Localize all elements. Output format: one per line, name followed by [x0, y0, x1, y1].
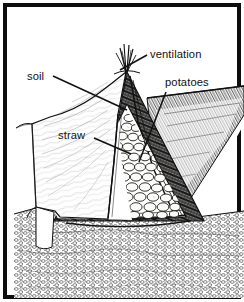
ventilation-tuft: [114, 44, 140, 74]
figure-frame: soil ventilation potatoes straw: [3, 3, 241, 299]
diagram-canvas: soil ventilation potatoes straw: [14, 14, 244, 302]
label-straw: straw: [58, 129, 86, 141]
potato-clamp-diagram: soil ventilation potatoes straw: [14, 14, 244, 302]
label-ventilation: ventilation: [150, 48, 201, 60]
label-soil: soil: [27, 70, 44, 82]
figure-page: soil ventilation potatoes straw: [0, 0, 244, 302]
label-potatoes: potatoes: [165, 76, 209, 88]
